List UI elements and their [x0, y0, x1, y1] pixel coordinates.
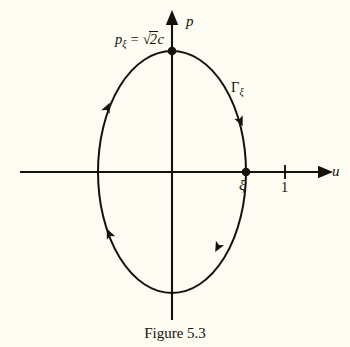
point-marker-xi: [242, 168, 251, 177]
square-root-group: √2: [142, 31, 158, 47]
curve-subscript: ξ: [239, 86, 243, 97]
curve-label: Γξ: [231, 80, 244, 95]
u-axis-label: u: [332, 164, 340, 179]
figure-caption: Figure 5.3: [0, 326, 350, 341]
p-axis-label: p: [186, 14, 194, 29]
top-vertex-coefficient: c: [158, 31, 164, 47]
phase-portrait-plot: [0, 0, 350, 347]
top-vertex-equals-sign: =: [126, 31, 141, 47]
radicand-value: 2: [149, 31, 157, 47]
x-tick-label-1: 1: [281, 180, 288, 195]
point-marker-p-xi: [168, 47, 177, 56]
direction-arrow-lower-right: [211, 241, 224, 254]
right-vertex-label: ξ: [239, 178, 245, 193]
top-vertex-value-label: pξ=√2c: [115, 31, 164, 47]
figure-5-3: p u pξ=√2c Γξ ξ 1 Figure 5.3: [0, 0, 350, 347]
